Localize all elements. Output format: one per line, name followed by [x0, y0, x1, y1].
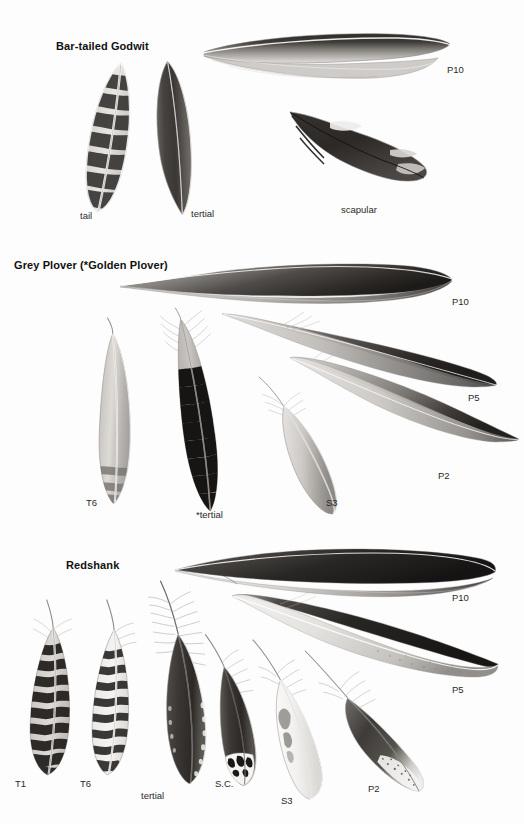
feather-plover-t6	[83, 317, 148, 509]
feather-label-redshank-t6: T6	[80, 778, 91, 789]
feather-label-plover-p2: P2	[438, 470, 450, 481]
feather-label-godwit-scapular: scapular	[341, 204, 377, 215]
feather-godwit-p10	[198, 26, 454, 98]
feather-godwit-scapular	[286, 106, 436, 194]
feather-label-godwit-tertial: tertial	[191, 208, 214, 219]
species-title-bar-tailed-godwit: Bar-tailed Godwit	[56, 40, 149, 52]
feather-redshank-t1	[15, 598, 86, 779]
feather-label-plover-tertial: *tertial	[196, 509, 223, 520]
feather-label-godwit-tail: tail	[80, 210, 92, 221]
feather-identification-plate: Bar-tailed Godwit	[0, 0, 524, 824]
feather-label-redshank-sc: S.C.	[215, 778, 233, 789]
feather-label-redshank-tertial: tertial	[141, 790, 164, 801]
species-title-redshank: Redshank	[66, 559, 119, 571]
feather-redshank-t6	[79, 599, 146, 780]
feather-label-redshank-p5: P5	[452, 684, 464, 695]
feather-plover-s3	[254, 366, 361, 525]
feather-label-redshank-s3: S3	[281, 795, 293, 806]
feather-label-plover-t6: T6	[86, 497, 97, 508]
feather-label-redshank-p2: P2	[368, 783, 380, 794]
feather-label-plover-s3: S3	[326, 497, 338, 508]
feather-godwit-tail	[74, 57, 144, 218]
feather-label-godwit-p10: P10	[447, 64, 464, 75]
feather-label-redshank-t1: T1	[15, 778, 26, 789]
